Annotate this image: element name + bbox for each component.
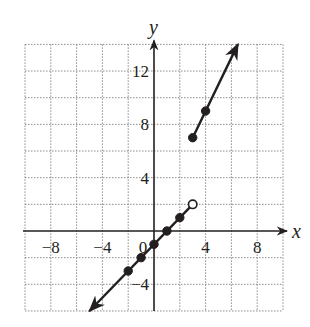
axes xyxy=(23,40,287,311)
piecewise-function-graph: −8−4048−44812 x y xyxy=(0,0,310,327)
y-axis-label: y xyxy=(147,16,158,39)
closed-point xyxy=(150,240,158,248)
closed-point xyxy=(137,253,145,261)
closed-point xyxy=(163,227,171,235)
closed-point xyxy=(176,213,184,221)
y-tick-label: 12 xyxy=(132,62,149,81)
y-tick-label: 4 xyxy=(141,169,150,188)
closed-point xyxy=(189,133,197,141)
x-axis-label: x xyxy=(291,220,301,242)
y-tick-label: 8 xyxy=(141,115,150,134)
x-tick-label: 4 xyxy=(201,238,210,257)
x-tick-label: 8 xyxy=(253,238,262,257)
closed-point xyxy=(124,267,132,275)
y-tick-label: −4 xyxy=(131,275,150,294)
open-point xyxy=(189,200,197,208)
closed-point xyxy=(201,107,209,115)
x-tick-label: −4 xyxy=(93,238,112,257)
x-tick-label: −8 xyxy=(42,238,60,257)
